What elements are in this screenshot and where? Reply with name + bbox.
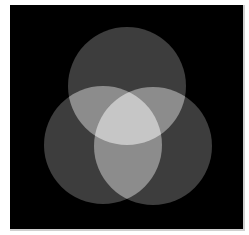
venn-diagram [0, 0, 249, 235]
